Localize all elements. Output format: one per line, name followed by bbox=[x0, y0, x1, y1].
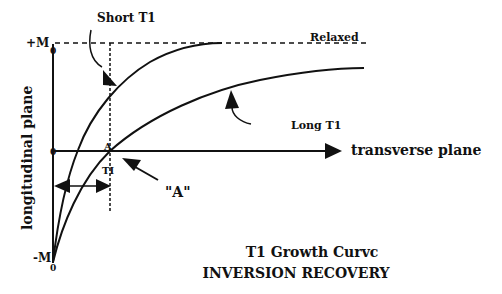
x-axis-label: transverse plane bbox=[351, 142, 481, 158]
chart-title: T1 Growth Curvc bbox=[246, 244, 379, 260]
y-axis-label: longitudinal plane bbox=[19, 86, 35, 230]
short-t1-callout-line bbox=[90, 30, 102, 67]
relaxed-label: Relaxed bbox=[310, 31, 359, 44]
short-t1-curve bbox=[53, 43, 222, 262]
ti-label: TI bbox=[102, 165, 114, 176]
minus-m-label: -M bbox=[33, 251, 51, 265]
plus-m-label: +M bbox=[26, 36, 49, 50]
zero-bottom-label: 0 bbox=[50, 263, 56, 273]
x-axis-arrow-icon bbox=[325, 143, 342, 159]
zero-top-label: 0 bbox=[50, 46, 56, 56]
chart-subtitle: INVERSION RECOVERY bbox=[202, 265, 390, 281]
ti-interval-right-arrow-icon bbox=[96, 179, 111, 193]
long-t1-callout-line bbox=[232, 107, 251, 124]
a-callout-label: "A" bbox=[165, 184, 190, 200]
zero-mid-label: 0 bbox=[50, 147, 56, 157]
short-t1-label: Short T1 bbox=[97, 11, 156, 25]
long-t1-label: Long T1 bbox=[291, 119, 341, 132]
ti-interval-left-arrow-icon bbox=[54, 179, 70, 193]
long-t1-callout-arrow-icon bbox=[225, 90, 239, 109]
t1-growth-curve-diagram: Short T1 Relaxed Long T1 +M 0 0 -M 0 A T… bbox=[0, 0, 502, 294]
long-t1-curve bbox=[53, 68, 364, 262]
null-point-label: A bbox=[103, 141, 112, 152]
short-t1-callout-arrow-icon bbox=[103, 70, 117, 86]
